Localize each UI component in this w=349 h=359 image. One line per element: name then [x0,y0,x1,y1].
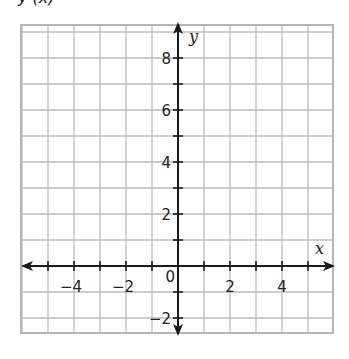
tick-labels: −4−20248642−2 [60,50,287,328]
y-tick-label: 2 [161,206,171,224]
x-tick-label: 2 [225,278,235,296]
x-axis-label: x [315,239,324,258]
y-tick-label: 4 [161,154,171,172]
x-tick-label: −2 [112,278,134,296]
coordinate-plane: −4−20248642−2 x y [0,0,349,359]
x-tick-label: 0 [165,268,175,286]
y-tick-label: 8 [161,50,171,68]
y-axis-label: y [188,27,199,46]
y-tick-label: 6 [161,102,171,120]
x-tick-label: −4 [60,278,82,296]
y-tick-label: −2 [149,310,171,328]
x-tick-label: 4 [277,278,287,296]
